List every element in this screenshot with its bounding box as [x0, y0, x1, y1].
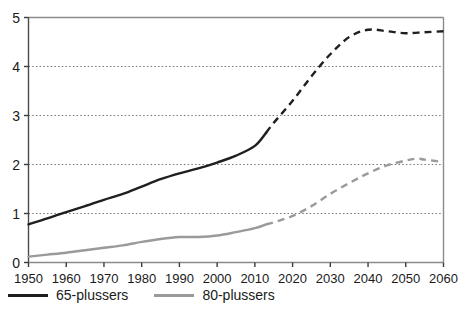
- legend-swatch-65-plussers: [8, 294, 48, 297]
- y-tick-label-0: 0: [4, 256, 20, 270]
- line-chart-plot: [0, 0, 463, 313]
- chart-legend: 65-plussers 80-plussers: [8, 288, 301, 302]
- y-tick-label-5: 5: [4, 11, 20, 25]
- y-tick-label-4: 4: [4, 60, 20, 74]
- series-line-65-plussers-historical: [29, 133, 267, 225]
- legend-swatch-80-plussers: [154, 294, 194, 297]
- series-line-80-plussers-historical: [29, 224, 267, 256]
- legend-entry-65-plussers: 65-plussers: [8, 288, 128, 302]
- y-tick-label-3: 3: [4, 109, 20, 123]
- legend-label-65-plussers: 65-plussers: [56, 288, 128, 302]
- y-tick-label-2: 2: [4, 158, 20, 172]
- series-line-80-plussers-projection: [266, 159, 443, 225]
- y-tick-label-1: 1: [4, 207, 20, 221]
- legend-entry-80-plussers: 80-plussers: [154, 288, 274, 302]
- legend-label-80-plussers: 80-plussers: [202, 288, 274, 302]
- chart-container: 012345 195019601970198019902000201020202…: [0, 0, 463, 313]
- x-tick-label-2060: 2060: [422, 272, 463, 285]
- series-line-65-plussers-projection: [266, 29, 443, 132]
